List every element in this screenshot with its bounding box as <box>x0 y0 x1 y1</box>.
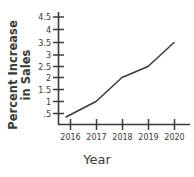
y-tick-label-3: 2 <box>33 73 51 82</box>
y-tick-label-8: 4.5 <box>33 13 51 22</box>
line-chart: Percent Increase in Sales .5 1 <box>0 0 194 177</box>
x-axis-title: Year <box>0 152 194 167</box>
x-tick-label-2017: 2017 <box>86 133 106 142</box>
chart-canvas <box>0 0 194 177</box>
y-tick-label-1: 1 <box>33 97 51 106</box>
x-tick-label-2020: 2020 <box>164 133 184 142</box>
x-tick-label-2016: 2016 <box>60 133 80 142</box>
y-tick-label-7: 4 <box>33 25 51 34</box>
x-tick-label-2018: 2018 <box>112 133 132 142</box>
x-tick-label-2019: 2019 <box>138 133 158 142</box>
y-tick-label-4: 2.5 <box>33 62 51 71</box>
axis-spines <box>58 12 190 125</box>
y-tick-label-0: .5 <box>33 109 51 118</box>
y-tick-label-5: 3 <box>33 51 51 60</box>
y-tick-label-2: 1.5 <box>33 85 51 94</box>
data-series-line <box>66 43 174 118</box>
y-tick-label-6: 3.5 <box>33 38 51 47</box>
